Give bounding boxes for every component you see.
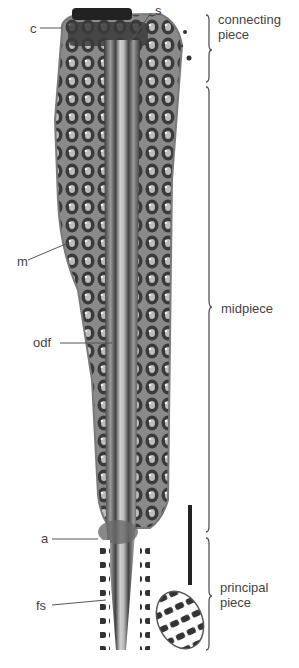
micrograph-figure: c s m odf a fs connecting piece midpiece… xyxy=(0,0,299,668)
region-principal-piece: principal piece xyxy=(220,580,268,610)
label-c: c xyxy=(30,22,37,35)
label-s: s xyxy=(155,4,162,17)
region-braces xyxy=(206,15,212,650)
region-midpiece-line1: midpiece xyxy=(221,301,273,316)
region-principal-piece-line1: principal xyxy=(220,580,268,595)
capitulum xyxy=(72,8,132,20)
micrograph-image xyxy=(0,0,299,668)
region-connecting-piece: connecting piece xyxy=(218,12,281,42)
label-m: m xyxy=(17,255,28,268)
label-fs: fs xyxy=(36,599,46,612)
label-odf: odf xyxy=(33,336,51,349)
region-midpiece: midpiece xyxy=(221,301,273,316)
fibrous-sheath-right xyxy=(140,540,150,650)
scale-bar xyxy=(188,505,192,585)
label-a: a xyxy=(41,532,48,545)
region-connecting-piece-line1: connecting xyxy=(218,12,281,27)
oblique-section xyxy=(147,584,212,657)
region-connecting-piece-line2: piece xyxy=(218,27,281,42)
fibrous-sheath-left xyxy=(100,540,110,650)
region-principal-piece-line2: piece xyxy=(220,595,268,610)
